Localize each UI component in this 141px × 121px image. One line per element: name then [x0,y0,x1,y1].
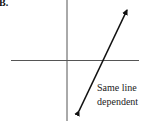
caption-dependent: dependent [97,96,138,107]
caption-same-line: Same line [97,82,137,93]
